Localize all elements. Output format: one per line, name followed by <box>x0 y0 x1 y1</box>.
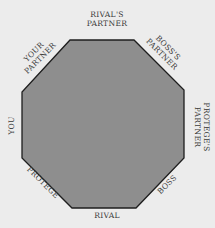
label-proteges-partner: PROTEGE'S PARTNER <box>193 93 211 161</box>
label-you: YOU <box>7 111 16 141</box>
label-rivals-partner: RIVAL'S PARTNER <box>72 10 142 28</box>
octagon-table <box>0 0 215 228</box>
label-rival: RIVAL <box>82 211 132 220</box>
seating-diagram: RIVAL'S PARTNER BOSS'S PARTNER PROTEGE'S… <box>0 0 215 228</box>
